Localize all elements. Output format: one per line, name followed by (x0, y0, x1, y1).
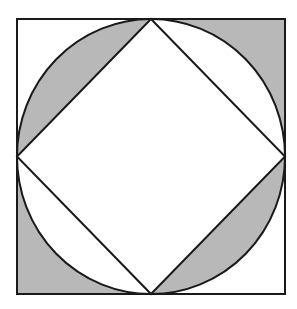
geometry-figure (0, 0, 297, 309)
